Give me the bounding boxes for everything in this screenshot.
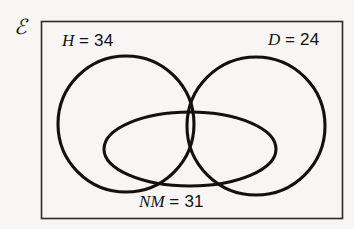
venn-diagram-canvas: ℰ H = 34 D = 24 NM = 31	[0, 0, 354, 229]
set-label-h-symbol: H	[62, 31, 74, 50]
set-label-d-symbol: D	[268, 30, 280, 49]
universal-set-rectangle	[42, 22, 343, 219]
universal-set-symbol: ℰ	[14, 17, 27, 38]
set-label-nm: NM = 31	[139, 193, 204, 210]
set-label-nm-symbol: NM	[139, 192, 165, 211]
set-label-nm-value: = 31	[169, 192, 203, 211]
set-label-h: H = 34	[62, 32, 113, 49]
set-label-h-value: = 34	[79, 31, 113, 50]
set-label-d-value: = 24	[285, 30, 319, 49]
set-label-d: D = 24	[268, 31, 319, 48]
